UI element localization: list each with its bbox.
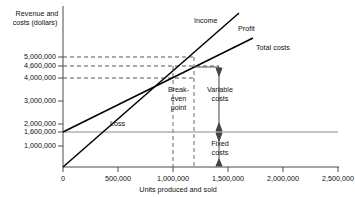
y-axis-title-line2: costs (dollars)	[2, 19, 68, 28]
loss-label: Loss	[110, 120, 125, 129]
profit-label: Profit	[238, 25, 255, 34]
x-tick-label-2500000: 2,500,000	[310, 175, 355, 184]
x-tick-label-1500000: 1,500,000	[200, 175, 256, 184]
fixed-costs-label-line2: costs	[199, 149, 241, 158]
variable-costs-label-line2: costs	[198, 95, 242, 104]
x-axis-title: Units produced and sold	[118, 186, 238, 195]
income-label: Income	[194, 17, 218, 26]
y-tick-label-1600000: 1,600,000	[0, 128, 56, 137]
x-tick-label-500000: 500,000	[93, 175, 143, 184]
break-even-chart: Revenue and costs (dollars) 5,000,000 4,…	[0, 0, 355, 197]
y-tick-label-4000000: 4,000,000	[0, 74, 56, 83]
break-even-label-line3: point	[162, 104, 195, 113]
total-costs-label: Total costs	[256, 44, 290, 53]
x-tick-marks	[63, 167, 338, 172]
x-tick-label-2000000: 2,000,000	[255, 175, 311, 184]
y-tick-label-4600000: 4,600,000	[0, 62, 56, 71]
y-tick-label-3000000: 3,000,000	[0, 97, 56, 106]
y-tick-label-1000000: 1,000,000	[0, 142, 56, 151]
x-tick-label-0: 0	[43, 175, 83, 184]
y-tick-marks	[58, 57, 63, 146]
x-tick-label-1000000: 1,000,000	[145, 175, 201, 184]
